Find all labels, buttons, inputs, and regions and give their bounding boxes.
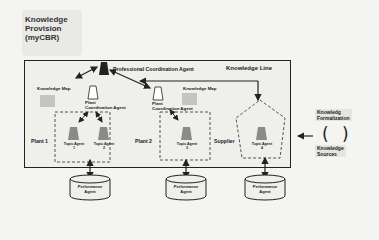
professional-agent-label: Professional Coordination Agent (113, 66, 194, 72)
topic-agent-3-label: Topic Agent 3 (176, 142, 198, 150)
plant-coord-2-line2: Coordination Agent (152, 106, 193, 111)
sources-line2: Sources (317, 151, 344, 157)
supplier-label: Supplier (214, 138, 235, 144)
topic-agent-1-label: Topic Agent 1 (63, 142, 85, 150)
performance-agent-1-label: Performance Agent (72, 184, 108, 194)
topic-agent-2-num: 2 (93, 146, 115, 150)
knowledge-map-right-label: Knowledge Map (183, 86, 216, 91)
arrow-plant1-topic1 (79, 112, 88, 122)
topic-agent-4-num: 4 (251, 146, 273, 150)
perf-1-line2: Agent (72, 189, 108, 194)
knowledge-formalization-label: Knowledg Formalization (315, 109, 352, 121)
bracket-icon: ( ) (322, 124, 353, 144)
perf-3-line2: Agent (247, 189, 283, 194)
arrow-to-plant2 (110, 70, 150, 88)
knowledge-line-label: Knowledge Line (226, 65, 272, 71)
plant-coordination-agent-2-icon (153, 87, 163, 100)
topic-agent-1-icon (68, 127, 79, 140)
perf-2-line2: Agent (168, 189, 204, 194)
plant-coordination-agent-1-icon (88, 86, 98, 99)
knowledge-map-left-icon (40, 95, 55, 107)
plant2-label: Plant 2 (135, 138, 152, 144)
topic-agent-3-num: 3 (176, 146, 198, 150)
formalization-line2: Formalization (317, 115, 350, 121)
arrow-plant1-topic2 (96, 112, 102, 122)
knowledge-map-left-label: Knowledge Map (37, 86, 70, 91)
topic-agent-1-num: 1 (63, 146, 85, 150)
arrow-to-knowledge-map (76, 67, 97, 78)
topic-agent-2-icon (98, 127, 109, 140)
knowledge-sources-label: Knowledge Sources (315, 145, 346, 157)
plant-coordination-agent-2-label: Plant Coordination Agent (152, 101, 193, 111)
topic-agent-2-label: Topic Agent 2 (93, 142, 115, 150)
performance-agent-3-label: Performance Agent (247, 184, 283, 194)
topic-agent-4-label: Topic Agent 4 (251, 142, 273, 150)
performance-agent-2-label: Performance Agent (168, 184, 204, 194)
plant-coord-1-line2: Coordination Agent (85, 105, 126, 110)
professional-agent-icon (99, 62, 109, 75)
topic-agent-3-icon (181, 127, 192, 140)
topic-agent-4-icon (256, 127, 267, 140)
plant1-label: Plant 1 (31, 138, 48, 144)
plant-coordination-agent-1-label: Plant Coordination Agent (85, 100, 126, 110)
